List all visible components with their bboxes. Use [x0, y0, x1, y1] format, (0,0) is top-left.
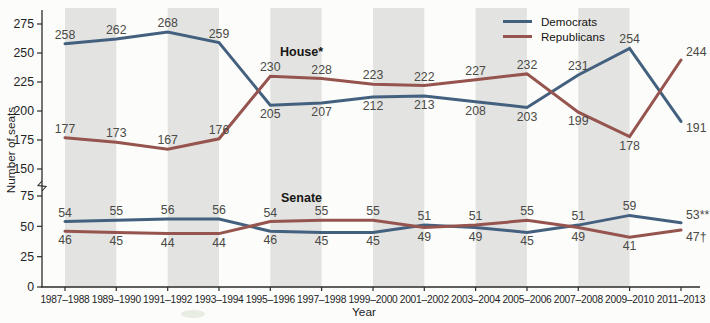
seats-line-chart: 27525022520017515075502501987–19881989–1… — [0, 0, 710, 323]
value-label: 228 — [311, 63, 332, 77]
value-label: 51 — [417, 209, 431, 223]
value-label: 208 — [465, 104, 486, 118]
value-label: 44 — [161, 236, 175, 250]
value-label: 54 — [58, 206, 72, 220]
value-label: 54 — [263, 206, 277, 220]
legend-label-democrats: Democrats — [541, 15, 597, 28]
value-label: 178 — [619, 139, 640, 153]
value-label: 46 — [58, 233, 72, 247]
value-label: 244 — [686, 45, 707, 59]
y-tick-label: 0 — [27, 280, 34, 294]
republicans-line-swatch — [503, 35, 532, 38]
x-tick-label: 1997–1998 — [297, 294, 347, 305]
y-tick-label: 250 — [13, 46, 34, 60]
value-label: 56 — [161, 203, 175, 217]
x-tick-label: 2009–2010 — [605, 294, 655, 305]
scan-smudge — [181, 310, 205, 318]
value-label: 46 — [263, 233, 277, 247]
legend: Democrats Republicans — [503, 14, 605, 44]
x-tick-label: 2001–2002 — [400, 294, 450, 305]
legend-label-republicans: Republicans — [541, 30, 605, 43]
value-label: 45 — [315, 234, 329, 248]
value-label: 177 — [55, 122, 76, 136]
legend-item-republicans: Republicans — [503, 29, 605, 44]
y-tick-label: 225 — [13, 75, 34, 89]
value-label: 227 — [465, 64, 486, 78]
value-label: 45 — [109, 234, 123, 248]
value-label: 213 — [414, 98, 435, 112]
value-label: 167 — [157, 133, 178, 147]
value-label: 44 — [212, 236, 226, 250]
value-label: 49 — [417, 230, 431, 244]
x-tick-label: 1989–1990 — [92, 294, 142, 305]
value-label: 212 — [363, 99, 384, 113]
x-tick-label: 2005–2006 — [502, 294, 552, 305]
value-label: 51 — [469, 209, 483, 223]
value-label: 49 — [469, 230, 483, 244]
value-label: 268 — [157, 16, 178, 30]
value-label: 232 — [517, 58, 538, 72]
value-label: 59 — [623, 199, 637, 213]
value-label: 53** — [686, 208, 709, 222]
y-tick-label: 50 — [20, 220, 34, 234]
value-label: 203 — [517, 110, 538, 124]
value-label: 55 — [520, 204, 534, 218]
value-label: 205 — [260, 107, 281, 121]
value-label: 222 — [414, 70, 435, 84]
value-label: 47† — [686, 230, 707, 244]
value-label: 45 — [366, 234, 380, 248]
value-label: 51 — [571, 209, 585, 223]
value-label: 55 — [315, 204, 329, 218]
value-label: 176 — [209, 123, 230, 137]
value-label: 41 — [623, 239, 637, 253]
shaded-band — [373, 8, 424, 287]
x-tick-label: 1987–1988 — [40, 294, 90, 305]
x-tick-label: 2007–2008 — [554, 294, 604, 305]
value-label: 207 — [311, 105, 332, 119]
legend-item-democrats: Democrats — [503, 14, 605, 29]
x-tick-label: 2003–2004 — [451, 294, 501, 305]
value-label: 262 — [106, 23, 127, 37]
value-label: 49 — [571, 230, 585, 244]
value-label: 259 — [209, 27, 230, 41]
value-label: 173 — [106, 126, 127, 140]
x-tick-label: 1999–2000 — [348, 294, 398, 305]
congress-seats-figure: 27525022520017515075502501987–19881989–1… — [0, 0, 710, 323]
value-label: 199 — [568, 114, 589, 128]
value-label: 55 — [366, 204, 380, 218]
value-label: 254 — [619, 32, 640, 46]
senate-series-label: Senate — [281, 191, 322, 205]
y-axis-title: Number of seats — [4, 107, 18, 194]
y-tick-label: 75 — [20, 189, 34, 203]
y-tick-label: 25 — [20, 250, 34, 264]
value-label: 258 — [55, 28, 76, 42]
x-tick-label: 1991–1992 — [143, 294, 193, 305]
value-label: 56 — [212, 203, 226, 217]
value-label: 223 — [363, 68, 384, 82]
value-label: 45 — [520, 234, 534, 248]
value-label: 191 — [686, 121, 707, 135]
value-label: 230 — [260, 60, 281, 74]
x-axis-title: Year — [352, 305, 376, 319]
house-series-label: House* — [280, 45, 323, 59]
democrats-line-swatch — [503, 20, 532, 23]
x-tick-label: 1995–1996 — [246, 294, 296, 305]
x-tick-label: 2011–2013 — [657, 294, 706, 305]
x-tick-label: 1993–1994 — [194, 294, 244, 305]
y-tick-label: 275 — [13, 17, 34, 31]
value-label: 55 — [109, 204, 123, 218]
value-label: 231 — [568, 59, 589, 73]
